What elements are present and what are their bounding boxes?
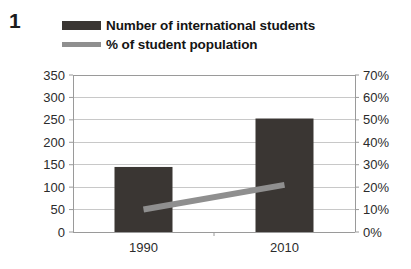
y-axis-right-tick-label: 30%: [363, 157, 389, 172]
figure-container: 1 Number of international students % of …: [0, 0, 411, 269]
y-axis-right-tick-label: 0%: [363, 225, 382, 240]
y-axis-right-tick-label: 10%: [363, 202, 389, 217]
y-axis-left-tick-label: 300: [43, 90, 65, 105]
y-axis-right-tick-label: 20%: [363, 180, 389, 195]
y-axis-left-tick-label: 100: [43, 180, 65, 195]
y-axis-right-tick-label: 40%: [363, 135, 389, 150]
y-axis-left-tick-label: 50: [51, 202, 65, 217]
chart-canvas: 00%5010%10020%15030%20040%25050%30060%35…: [0, 0, 411, 269]
bar-1990: [115, 167, 173, 232]
plot-area: 00%5010%10020%15030%20040%25050%30060%35…: [0, 0, 411, 269]
y-axis-left-tick-label: 0: [58, 225, 65, 240]
y-axis-left-tick-label: 350: [43, 68, 65, 83]
bar-2010: [256, 119, 314, 232]
y-axis-left-tick-label: 200: [43, 135, 65, 150]
y-axis-left-tick-label: 150: [43, 157, 65, 172]
x-axis-category-label: 2010: [270, 240, 299, 255]
y-axis-right-tick-label: 60%: [363, 90, 389, 105]
y-axis-right-tick-label: 50%: [363, 112, 389, 127]
y-axis-right-tick-label: 70%: [363, 68, 389, 83]
y-axis-left-tick-label: 250: [43, 112, 65, 127]
x-axis-category-label: 1990: [129, 240, 158, 255]
